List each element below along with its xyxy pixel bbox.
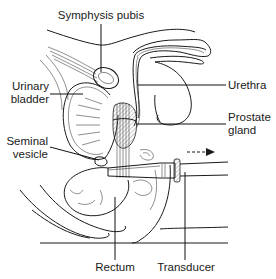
label-prostate-gland: Prostate gland — [228, 111, 271, 137]
label-seminal-vesicle: Seminal vesicle — [3, 135, 48, 161]
label-urethra: Urethra — [228, 79, 266, 92]
transducer-handle-grip — [174, 159, 180, 182]
direction-arrow-icon — [187, 148, 215, 156]
label-urinary-bladder: Urinary bladder — [3, 80, 49, 106]
seminal-vesicle — [95, 157, 107, 166]
label-symphysis-pubis: Symphysis pubis — [56, 9, 146, 22]
label-rectum: Rectum — [92, 261, 138, 274]
leader-seminal-vesicle — [50, 147, 99, 160]
scrotum-outline — [155, 62, 191, 125]
label-transducer: Transducer — [155, 261, 217, 274]
label-seminal-vesicle-line2: vesicle — [3, 148, 48, 161]
abdominal-wall — [47, 29, 195, 45]
label-urinary-bladder-line2: bladder — [3, 93, 49, 106]
penis-outline — [133, 40, 211, 128]
label-prostate-gland-line1: Prostate — [228, 111, 271, 124]
label-prostate-gland-line2: gland — [228, 124, 271, 137]
label-seminal-vesicle-line1: Seminal — [3, 135, 48, 148]
label-urinary-bladder-line1: Urinary — [3, 80, 49, 93]
